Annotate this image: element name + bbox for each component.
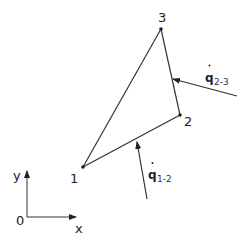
flux-arrow-1-2 bbox=[137, 142, 147, 199]
flux-subscript-1-2: 1-2 bbox=[157, 174, 172, 184]
node-3-dot bbox=[159, 27, 163, 31]
flux-label-1-2: q 1-2 bbox=[148, 162, 172, 184]
x-axis-label: x bbox=[75, 221, 83, 236]
flux-label-2-3: q 2-3 bbox=[205, 65, 229, 88]
dot-accent-icon bbox=[152, 162, 154, 164]
origin-label: 0 bbox=[16, 213, 24, 228]
node-2-dot bbox=[178, 113, 182, 117]
flux-subscript-2-3: 2-3 bbox=[214, 77, 229, 87]
node-label-2: 2 bbox=[184, 114, 192, 129]
node-label-1: 1 bbox=[70, 171, 78, 186]
flux-symbol-1-2: q bbox=[148, 168, 157, 182]
y-axis-label: y bbox=[13, 168, 21, 183]
diagram-canvas: 3 2 1 q 2-3 q 1-2 y x 0 bbox=[0, 0, 249, 247]
triangle-element bbox=[81, 27, 182, 169]
node-label-3: 3 bbox=[158, 10, 166, 25]
flux-symbol-2-3: q bbox=[205, 71, 214, 85]
node-1-dot bbox=[81, 165, 85, 169]
coordinate-axes bbox=[27, 171, 76, 217]
edge-2-3 bbox=[161, 29, 180, 115]
dot-accent-icon bbox=[209, 65, 211, 67]
